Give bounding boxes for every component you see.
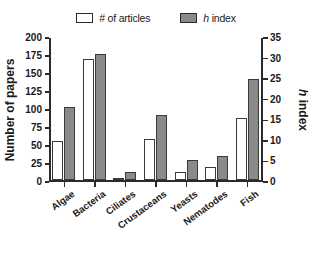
x-tick [186,182,187,187]
y-axis-right-title: h index [295,38,311,182]
x-category-label: Fish [238,188,260,208]
chart-figure: # of articles h index Number of papers h… [0,0,312,257]
bar-group [83,38,107,180]
y-tick-right [263,181,268,182]
bar-hindex [95,54,106,180]
y-tick-right [263,120,268,121]
plot-area: 0255075100125150175200 05101520253035 [49,38,263,182]
open-square-swatch [76,13,93,23]
y-tick-right [263,161,268,162]
y-tick-label-left: 0 [36,177,42,187]
x-tick [125,182,126,187]
y-tick-label-left: 25 [31,159,42,169]
y-tick-left [45,181,50,182]
bar-articles [236,118,247,180]
y-tick-label-left: 125 [25,87,42,97]
y-axis-right-title-text: h index [296,89,310,131]
y-tick-right [263,78,268,79]
bar-hindex [217,156,228,180]
y-tick-label-left: 50 [31,141,42,151]
legend-label-articles: # of articles [99,12,150,24]
bar-group [236,38,260,180]
bar-groups [49,38,263,180]
y-tick-label-right: 30 [270,54,281,64]
legend-label-hindex-rest: index [209,12,236,24]
x-tick [64,182,65,187]
bar-hindex [125,172,136,180]
y-axis-left-title-text: Number of papers [3,59,17,162]
y-tick-label-right: 35 [270,33,281,43]
y-tick-label-right: 5 [270,156,276,166]
bar-group [144,38,168,180]
y-tick-label-left: 175 [25,51,42,61]
y-tick-right [263,37,268,38]
y-tick-right [263,140,268,141]
x-category-label: Bacteria [70,188,107,219]
bar-articles [83,59,94,180]
legend-entry-articles: # of articles [76,12,150,24]
bar-articles [175,172,186,181]
x-tick [247,182,248,187]
bar-group [52,38,76,180]
legend-entry-hindex: h index [180,12,235,24]
y-tick-right [263,99,268,100]
bar-group [205,38,229,180]
bar-articles [52,141,63,180]
y-axis-right-title-rest: index [296,96,310,131]
legend-label-hindex: h index [203,12,235,24]
bar-articles [144,139,155,180]
bar-articles [205,167,216,181]
y-tick-label-left: 100 [25,105,42,115]
y-tick-label-left: 200 [25,33,42,43]
chart-legend: # of articles h index [0,12,312,24]
y-axis-left-title: Number of papers [2,38,18,182]
y-tick-label-right: 10 [270,136,281,146]
y-tick-label-right: 25 [270,74,281,84]
y-tick-label-right: 15 [270,115,281,125]
bar-articles [113,178,124,180]
x-tick [155,182,156,187]
y-tick-label-left: 75 [31,123,42,133]
bar-group [113,38,137,180]
x-tick [216,182,217,187]
bar-hindex [187,160,198,180]
bar-hindex [156,115,167,180]
y-tick-label-right: 20 [270,95,281,105]
filled-square-swatch [180,13,197,23]
bar-hindex [64,107,75,180]
y-tick-label-right: 0 [270,177,276,187]
x-tick [94,182,95,187]
bar-hindex [248,79,259,181]
y-tick-right [263,58,268,59]
bar-group [175,38,199,180]
y-tick-label-left: 150 [25,69,42,79]
